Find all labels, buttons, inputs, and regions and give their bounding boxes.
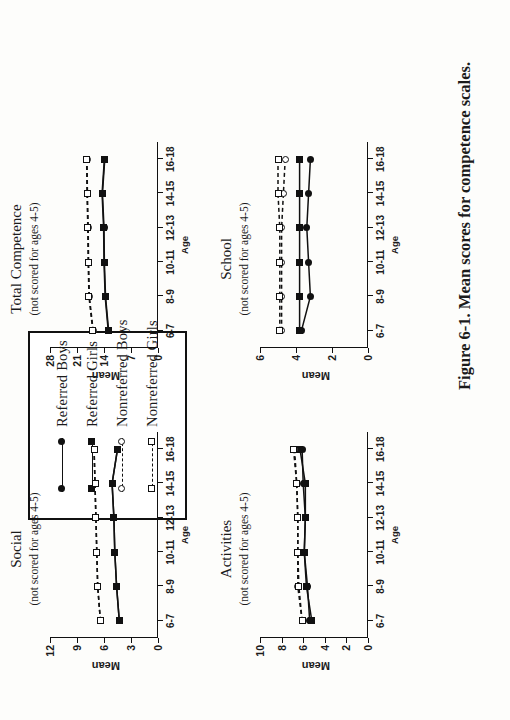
x-axis-tick-label: 12-13 — [375, 505, 386, 531]
figure-caption: Figure 6-1. Mean scores for competence s… — [455, 62, 475, 390]
data-point-os — [92, 480, 99, 487]
series-line — [112, 449, 119, 621]
y-axis-tick — [50, 348, 51, 353]
y-axis-title: Mean — [302, 370, 330, 382]
x-axis-tick — [158, 261, 163, 262]
chart-subtitle: (not scored for ages 4-5) — [28, 128, 40, 390]
x-axis-tick — [368, 330, 373, 331]
data-point-os — [93, 549, 100, 556]
x-axis-tick-label: 12-13 — [165, 215, 176, 241]
chart-title: Activities — [218, 418, 235, 680]
y-axis-tick — [77, 348, 78, 353]
data-point-fs — [296, 190, 303, 197]
y-axis-tick — [325, 638, 326, 643]
y-axis-tick — [296, 348, 297, 353]
x-axis-tick-label: 8-9 — [165, 289, 176, 303]
y-axis-tick-label: 2 — [340, 645, 352, 651]
series-line — [300, 449, 312, 621]
data-point-fc — [305, 259, 312, 266]
series-lines — [260, 142, 368, 348]
x-axis-tick-label: 10-11 — [375, 250, 386, 275]
y-axis-tick-label: 10 — [254, 645, 266, 657]
data-point-fs — [109, 480, 116, 487]
x-axis-tick — [368, 483, 373, 484]
data-point-fs — [101, 259, 108, 266]
y-axis-tick-label: 9 — [71, 645, 83, 651]
x-axis-title: Age — [179, 432, 190, 638]
data-point-fc — [307, 156, 314, 163]
series-line — [102, 159, 108, 331]
x-axis-tick-label: 10-11 — [375, 540, 386, 565]
x-axis-tick-label: 10-11 — [165, 540, 176, 565]
x-axis-tick — [368, 586, 373, 587]
x-axis-title: Age — [179, 142, 190, 348]
x-axis-tick — [368, 296, 373, 297]
data-point-os — [84, 224, 91, 231]
x-axis-tick-label: 12-13 — [165, 505, 176, 531]
y-axis-tick-label: 6 — [297, 645, 309, 651]
y-axis-tick — [104, 348, 105, 353]
series-lines — [260, 432, 368, 638]
y-axis-tick-label: 0 — [362, 355, 374, 361]
y-axis-tick-label: 4 — [290, 355, 302, 361]
chart-subtitle: (not scored for ages 4-5) — [238, 128, 250, 390]
data-point-oc — [282, 156, 289, 163]
x-axis-tick — [158, 296, 163, 297]
data-point-os — [294, 514, 301, 521]
series-line — [94, 449, 100, 621]
x-axis-tick-label: 14-15 — [165, 471, 176, 497]
series-line — [293, 449, 302, 621]
y-axis-tick — [260, 348, 261, 353]
y-axis-tick — [368, 348, 369, 353]
x-axis-tick-label: 8-9 — [375, 289, 386, 303]
data-point-fs — [302, 480, 309, 487]
data-point-fs — [114, 446, 121, 453]
data-point-os — [94, 583, 101, 590]
y-axis-tick — [303, 638, 304, 643]
chart-panel-total-competence: Total Competence(not scored for ages 4-5… — [8, 128, 198, 390]
y-axis-tick — [104, 638, 105, 643]
data-point-os — [97, 617, 104, 624]
y-axis-title: Mean — [302, 660, 330, 672]
series-line — [278, 159, 280, 331]
chart-subtitle: (not scored for ages 4-5) — [28, 418, 40, 680]
x-axis-tick-label: 10-11 — [165, 250, 176, 275]
x-axis-tick-label: 6-7 — [375, 614, 386, 628]
x-axis-tick-label: 6-7 — [375, 324, 386, 338]
chart-panel-social: Social(not scored for ages 4-5)0369126-7… — [8, 418, 198, 680]
x-axis-tick — [368, 158, 373, 159]
y-axis-tick-label: 0 — [362, 645, 374, 651]
x-axis-tick-label: 6-7 — [165, 614, 176, 628]
y-axis-tick-label: 6 — [98, 645, 110, 651]
y-axis-tick-label: 4 — [319, 645, 331, 651]
data-point-fs — [301, 549, 308, 556]
x-axis-tick — [368, 448, 373, 449]
data-point-fs — [296, 327, 303, 334]
x-axis-tick — [368, 620, 373, 621]
x-axis-tick-label: 6-7 — [165, 324, 176, 338]
series-line — [301, 159, 310, 331]
y-axis-tick — [368, 638, 369, 643]
x-axis-tick — [158, 517, 163, 518]
y-axis-tick — [50, 638, 51, 643]
x-axis-tick — [158, 448, 163, 449]
y-axis-tick — [346, 638, 347, 643]
chart-title: Social — [8, 418, 25, 680]
x-axis-tick-label: 14-15 — [375, 471, 386, 497]
series-line — [87, 159, 93, 331]
data-point-os — [85, 293, 92, 300]
data-point-os — [84, 190, 91, 197]
data-point-fs — [105, 327, 112, 334]
y-axis-tick — [282, 638, 283, 643]
x-axis-tick-label: 16-18 — [165, 436, 176, 462]
y-axis-tick-label: 0 — [152, 355, 164, 361]
data-point-os — [295, 583, 302, 590]
x-axis-tick-label: 8-9 — [375, 579, 386, 593]
plot-area: 0369126-78-910-1112-1314-1516-18AgeMean — [50, 432, 158, 638]
x-axis-tick — [368, 551, 373, 552]
series-line — [94, 449, 100, 621]
x-axis-tick — [158, 586, 163, 587]
data-point-os — [276, 259, 283, 266]
series-lines — [50, 432, 158, 638]
plot-area: 071421286-78-910-1112-1314-1516-18AgeMea… — [50, 142, 158, 348]
